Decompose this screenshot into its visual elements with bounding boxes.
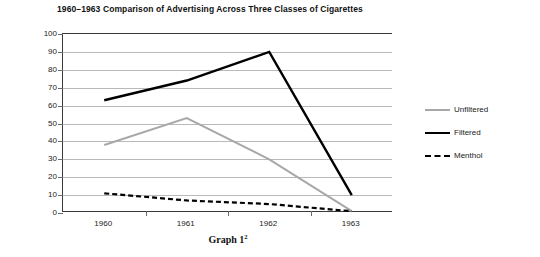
y-axis-tick-label: 0: [53, 208, 57, 217]
legend-swatch-icon: [425, 132, 450, 134]
y-axis-tick: [58, 213, 63, 214]
legend-item-label: Unfiltered: [454, 105, 488, 114]
y-axis-label-group: 1009080706050403020100: [24, 33, 57, 212]
x-axis-tick-label: 1960: [94, 219, 112, 228]
x-axis-tick-label: 1961: [177, 219, 195, 228]
chart-legend: UnfilteredFilteredMenthol: [425, 98, 537, 167]
chart-container: 1960–1963 Comparison of Advertising Acro…: [0, 0, 540, 257]
figure-caption: Graph 12: [0, 233, 456, 245]
y-axis-tick-label: 40: [48, 136, 57, 145]
y-axis-tick-label: 10: [48, 190, 57, 199]
y-axis-tick-label: 30: [48, 154, 57, 163]
y-axis-tick-label: 20: [48, 172, 57, 181]
legend-item-unfiltered[interactable]: Unfiltered: [425, 98, 537, 121]
y-axis-tick-label: 90: [48, 46, 57, 55]
series-line-filtered: [104, 52, 352, 195]
chart-title: 1960–1963 Comparison of Advertising Acro…: [57, 4, 363, 14]
legend-item-label: Menthol: [454, 151, 482, 160]
legend-swatch-icon: [425, 109, 450, 111]
legend-item-filtered[interactable]: Filtered: [425, 121, 537, 144]
y-axis-tick-label: 70: [48, 82, 57, 91]
figure-caption-text: Graph 1: [208, 234, 244, 245]
y-axis-tick-label: 80: [48, 64, 57, 73]
y-axis-tick-label: 60: [48, 100, 57, 109]
x-axis-label-group: 1960196119621963: [0, 219, 540, 233]
x-axis-tick-label: 1963: [342, 219, 360, 228]
y-axis-tick-label: 50: [48, 118, 57, 127]
legend-swatch-icon: [425, 155, 450, 157]
x-axis-tick-label: 1962: [259, 219, 277, 228]
figure-caption-superscript: 2: [244, 233, 247, 240]
legend-item-label: Filtered: [454, 128, 481, 137]
y-axis-tick-label: 100: [44, 29, 57, 38]
series-layer: [63, 34, 393, 213]
plot-area: [62, 33, 392, 212]
series-line-menthol: [104, 193, 352, 211]
legend-item-menthol[interactable]: Menthol: [425, 144, 537, 167]
